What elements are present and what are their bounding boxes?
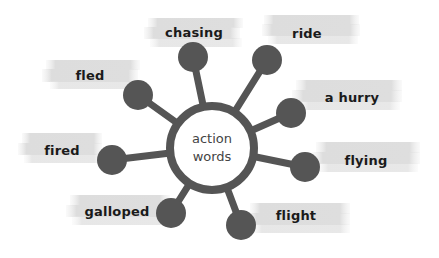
word-galloped: galloped — [85, 204, 150, 219]
word-flying: flying — [345, 153, 388, 168]
node-ride — [252, 45, 282, 75]
node-fled — [123, 80, 153, 110]
word-ride: ride — [292, 26, 322, 41]
node-fired — [97, 145, 127, 175]
center-label: action words — [192, 130, 232, 166]
word-chasing: chasing — [165, 25, 223, 40]
word-flight: flight — [276, 208, 317, 223]
word-a-hurry: a hurry — [325, 90, 380, 105]
node-chasing — [178, 42, 208, 72]
word-fired: fired — [44, 143, 80, 158]
node-flying — [290, 152, 320, 182]
center-label-line2: words — [192, 148, 232, 166]
node-flight — [226, 210, 256, 240]
node-a-hurry — [276, 98, 306, 128]
word-fled: fled — [75, 68, 104, 83]
node-galloped — [156, 198, 186, 228]
center-label-line1: action — [192, 130, 232, 148]
